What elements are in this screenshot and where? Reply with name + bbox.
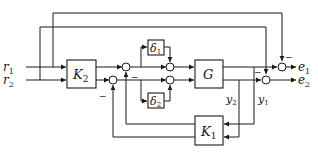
delta1-block: δ1 (148, 40, 164, 56)
y2-label: y2 (225, 93, 237, 107)
svg-text:y1: y1 (257, 93, 269, 107)
sum-junction-1 (122, 63, 130, 71)
delta2-input (141, 80, 147, 101)
block-diagram: r1 r2 K2 − − δ1 δ2 G (0, 0, 318, 154)
sum-junction-e2 (262, 76, 270, 84)
sum-junction-3 (166, 63, 174, 71)
sum-junction-e1 (278, 63, 286, 71)
g-block: G (195, 60, 223, 88)
sum-junction-4 (166, 76, 174, 84)
e2-minus-sign: − (254, 67, 262, 77)
k2-block: K2 (67, 60, 96, 88)
sum-junction-2 (109, 76, 117, 84)
y1-label: y1 (257, 93, 269, 107)
e1-minus-sign: − (285, 52, 293, 62)
r1-feedforward (53, 13, 282, 67)
svg-text:G: G (203, 67, 213, 82)
delta1-output (164, 47, 170, 62)
delta1-input (141, 47, 147, 67)
sum2-minus-sign: − (99, 91, 107, 101)
k1-block: K1 (195, 116, 223, 145)
delta2-block: δ2 (148, 93, 164, 109)
delta2-output (164, 85, 170, 101)
y2-feedback (224, 80, 239, 137)
svg-text:y2: y2 (225, 93, 237, 107)
